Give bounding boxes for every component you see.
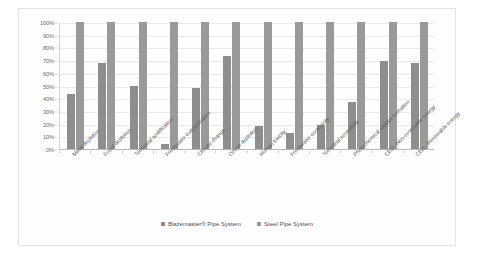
- bar[interactable]: [389, 22, 397, 149]
- legend-swatch-icon: [257, 222, 261, 226]
- y-axis-tick-label: 90%: [43, 33, 54, 39]
- bar[interactable]: [107, 22, 115, 149]
- y-axis-tick-label: 30%: [43, 109, 54, 115]
- y-axis-tick-label: 60%: [43, 71, 54, 77]
- bar[interactable]: [420, 22, 428, 149]
- y-axis-tick-mark: [55, 137, 57, 138]
- bar[interactable]: [139, 22, 147, 149]
- legend-item-label: Steel Pipe System: [264, 221, 313, 227]
- bar[interactable]: [67, 94, 75, 149]
- y-axis-tick-label: 40%: [43, 96, 54, 102]
- x-axis-tick-mark: [153, 151, 154, 153]
- y-axis-tick-mark: [55, 99, 57, 100]
- chart-screenshot: { "chart_data": { "type": "bar", "title"…: [0, 0, 480, 260]
- y-axis-tick-label: 10%: [43, 134, 54, 140]
- legend-item-label: Blazemaster® Pipe System: [168, 221, 241, 227]
- y-axis-tick-label: 100%: [40, 20, 54, 26]
- y-axis-tick-label: 0%: [46, 147, 54, 153]
- y-axis-tick-mark: [55, 124, 57, 125]
- bar[interactable]: [232, 22, 240, 149]
- x-axis-tick-mark: [122, 151, 123, 153]
- y-axis-tick-mark: [55, 23, 57, 24]
- bar[interactable]: [170, 22, 178, 149]
- legend-item[interactable]: Steel Pipe System: [257, 221, 313, 227]
- bar[interactable]: [264, 22, 272, 149]
- x-axis-tick-mark: [278, 151, 279, 153]
- x-axis-labels: Metal depletionFossil depletionTerrestri…: [59, 151, 434, 213]
- bar[interactable]: [326, 22, 334, 149]
- bar[interactable]: [98, 63, 106, 149]
- chart-container: 100%90%80%70%60%50%40%30%20%10%0% Metal …: [18, 8, 456, 246]
- x-axis-tick-mark: [184, 151, 185, 153]
- x-axis-tick-mark: [90, 151, 91, 153]
- y-axis-tick-mark: [55, 86, 57, 87]
- x-axis-tick-mark: [403, 151, 404, 153]
- y-axis-tick-mark: [55, 61, 57, 62]
- bar[interactable]: [286, 133, 294, 150]
- bar-group: [60, 23, 91, 149]
- y-axis-tick-mark: [55, 150, 57, 151]
- y-axis-tick-mark: [55, 35, 57, 36]
- x-axis-tick-mark: [247, 151, 248, 153]
- y-axis: 100%90%80%70%60%50%40%30%20%10%0%: [19, 23, 57, 150]
- y-axis-tick-mark: [55, 73, 57, 74]
- x-axis-tick-mark: [340, 151, 341, 153]
- y-axis-tick-label: 20%: [43, 122, 54, 128]
- y-axis-tick-label: 70%: [43, 58, 54, 64]
- bar[interactable]: [201, 22, 209, 149]
- y-axis-tick-label: 80%: [43, 45, 54, 51]
- legend-swatch-icon: [161, 222, 165, 226]
- x-axis-tick-mark: [372, 151, 373, 153]
- y-axis-tick-label: 50%: [43, 84, 54, 90]
- bar[interactable]: [411, 63, 419, 149]
- bar[interactable]: [357, 22, 365, 149]
- y-axis-tick-mark: [55, 48, 57, 49]
- x-axis-tick-mark: [309, 151, 310, 153]
- y-axis-tick-mark: [55, 111, 57, 112]
- legend-item[interactable]: Blazemaster® Pipe System: [161, 221, 241, 227]
- bar[interactable]: [223, 56, 231, 149]
- bar[interactable]: [130, 86, 138, 150]
- x-axis-tick-mark: [215, 151, 216, 153]
- chart-legend: Blazemaster® Pipe SystemSteel Pipe Syste…: [19, 221, 455, 227]
- x-axis-tick-mark: [59, 151, 60, 153]
- bar[interactable]: [76, 22, 84, 149]
- bar[interactable]: [380, 61, 388, 149]
- bar[interactable]: [295, 22, 303, 149]
